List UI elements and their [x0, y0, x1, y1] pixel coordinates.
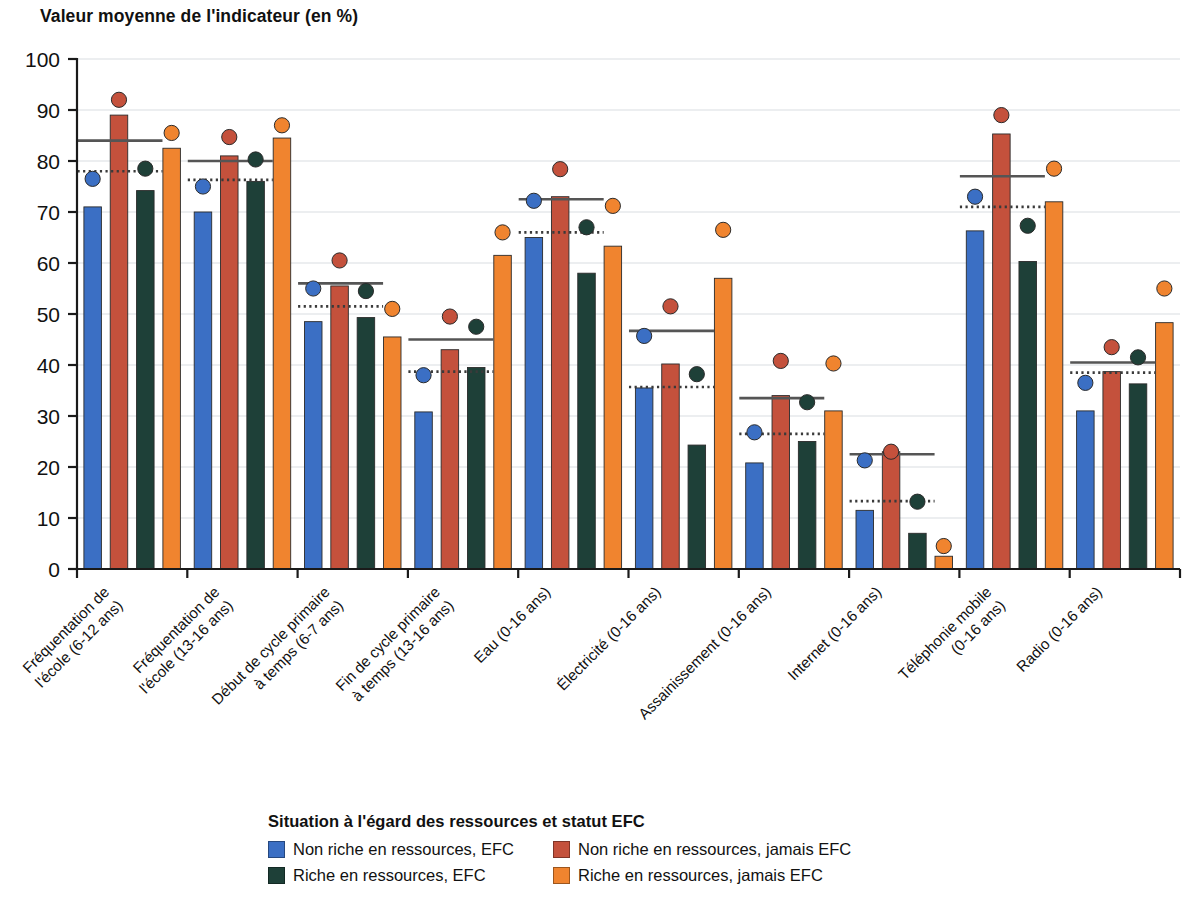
bar: [441, 350, 459, 569]
x-category-label: Fin de cycle primaireà temps (13-16 ans): [332, 583, 457, 708]
svg-text:Électricité (0-16 ans): Électricité (0-16 ans): [553, 583, 664, 694]
marker-dot: [689, 367, 704, 382]
bar: [772, 396, 790, 569]
y-tick-label: 70: [37, 201, 60, 224]
bar: [221, 156, 239, 569]
marker-dot: [883, 444, 898, 459]
marker-dot: [195, 179, 210, 194]
marker-dot: [526, 193, 541, 208]
y-tick-label: 20: [37, 456, 60, 479]
marker-dot: [85, 171, 100, 186]
bar: [688, 445, 706, 569]
marker-dot: [416, 368, 431, 383]
y-tick-label: 80: [37, 150, 60, 173]
x-category-label: Eau (0-16 ans): [470, 583, 553, 666]
svg-text:Eau (0-16 ans): Eau (0-16 ans): [470, 583, 553, 666]
bar: [662, 364, 680, 569]
bar: [1156, 323, 1174, 569]
bar: [273, 138, 291, 569]
bar: [84, 207, 102, 569]
marker-dot: [469, 319, 484, 334]
y-tick-label: 90: [37, 99, 60, 122]
bar: [635, 388, 653, 569]
legend-title: Situation à l'égard des ressources et st…: [268, 812, 968, 831]
marker-dot: [910, 494, 925, 509]
y-tick-label: 100: [25, 48, 60, 71]
bar: [305, 322, 323, 569]
legend-label: Non riche en ressources, jamais EFC: [578, 841, 851, 858]
bar: [137, 191, 155, 569]
bar: [525, 238, 543, 570]
marker-dot: [1104, 340, 1119, 355]
y-tick-label: 10: [37, 507, 60, 530]
bar: [935, 556, 953, 569]
y-tick-label: 30: [37, 405, 60, 428]
marker-dot: [385, 301, 400, 316]
marker-dot: [138, 161, 153, 176]
legend-items: Non riche en ressources, EFCNon riche en…: [268, 841, 968, 884]
plot-area: 0102030405060708090100 Fréquentation del…: [0, 0, 1182, 790]
bar: [163, 148, 181, 569]
bar: [247, 181, 265, 569]
bar: [415, 412, 433, 569]
x-category-label: Fréquentation del'école (6-12 ans): [18, 583, 126, 691]
y-tick-label: 0: [48, 558, 60, 581]
marker-dot: [579, 220, 594, 235]
y-tick-label: 50: [37, 303, 60, 326]
marker-dot: [164, 125, 179, 140]
legend-item: Non riche en ressources, EFC: [268, 841, 553, 858]
marker-dot: [222, 129, 237, 144]
bar: [825, 411, 843, 569]
legend-item: Riche en ressources, jamais EFC: [553, 867, 968, 884]
bar: [966, 231, 984, 569]
y-tick-label: 40: [37, 354, 60, 377]
marker-dot: [1157, 281, 1172, 296]
marker-dot: [332, 253, 347, 268]
bar: [467, 368, 485, 569]
x-category-label: Téléphonie mobile(0-16 ans): [895, 583, 1008, 696]
marker-dot: [967, 189, 982, 204]
legend-swatch: [268, 841, 285, 858]
marker-dot: [306, 281, 321, 296]
marker-dot: [495, 225, 510, 240]
marker-dot: [274, 118, 289, 133]
legend-swatch: [268, 867, 285, 884]
marker-dot: [248, 152, 263, 167]
bars-layer: [84, 115, 1173, 569]
x-category-label: Fréquentation del'école (13-16 ans): [123, 583, 236, 696]
marker-dot: [747, 425, 762, 440]
gridlines: [77, 59, 1180, 518]
bar: [494, 255, 512, 569]
legend-item: Riche en ressources, EFC: [268, 867, 553, 884]
bar: [909, 533, 927, 569]
marker-dot: [1078, 375, 1093, 390]
bar: [578, 273, 596, 569]
marker-dot: [637, 328, 652, 343]
svg-text:Radio (0-16 ans): Radio (0-16 ans): [1013, 583, 1105, 675]
bar: [993, 134, 1011, 569]
bar: [1019, 261, 1037, 569]
legend-label: Riche en ressources, EFC: [293, 867, 486, 884]
x-category-label: Électricité (0-16 ans): [553, 583, 664, 694]
y-axis-ticks: 0102030405060708090100: [25, 48, 77, 581]
bar: [746, 463, 764, 569]
marker-dot: [773, 353, 788, 368]
x-category-label: Radio (0-16 ans): [1013, 583, 1105, 675]
marker-dot: [857, 453, 872, 468]
legend-label: Riche en ressources, jamais EFC: [578, 867, 823, 884]
marker-dot: [826, 356, 841, 371]
bar: [194, 212, 212, 569]
bar: [357, 318, 375, 569]
bar: [551, 197, 569, 569]
marker-dot: [1130, 350, 1145, 365]
marker-dot: [994, 108, 1009, 123]
y-tick-label: 60: [37, 252, 60, 275]
legend-item: Non riche en ressources, jamais EFC: [553, 841, 968, 858]
legend-label: Non riche en ressources, EFC: [293, 841, 514, 858]
x-category-label: Assainissement (0-16 ans): [635, 583, 774, 722]
marker-dot: [716, 222, 731, 237]
bar: [604, 246, 622, 569]
marker-dot: [936, 538, 951, 553]
bar: [1129, 384, 1147, 569]
bar: [110, 115, 128, 569]
